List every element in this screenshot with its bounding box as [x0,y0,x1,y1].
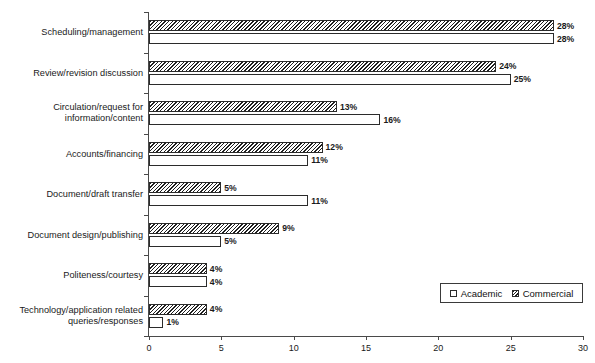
category-label: Review/revision discussion [0,67,143,78]
x-tick-mark [294,336,295,340]
bar-commercial [149,101,337,112]
bar-value-label: 12% [326,142,343,152]
bar-value-label: 28% [557,21,574,31]
x-tick-label: 30 [578,343,588,353]
bar-academic [149,195,308,206]
legend-item-commercial: Commercial [512,288,574,299]
x-tick-mark [438,336,439,340]
bar-commercial [149,142,323,153]
bar-value-label: 11% [311,196,328,206]
x-tick-label: 10 [289,343,299,353]
x-tick-mark [149,336,150,340]
legend-swatch-academic-icon [450,290,457,297]
x-tick-label: 0 [146,343,151,353]
legend-label-commercial: Commercial [523,288,574,299]
bar-value-label: 25% [514,74,531,84]
x-tick-mark [511,336,512,340]
x-tick-label: 15 [361,343,371,353]
x-tick-mark [366,336,367,340]
category-label: Technology/application relatedqueries/re… [0,305,143,327]
bar-commercial [149,223,279,234]
bar-value-label: 4% [210,277,222,287]
category-label: Scheduling/management [0,27,143,38]
chart-title [148,0,568,1]
x-tick-label: 25 [506,343,516,353]
bar-commercial [149,182,221,193]
chart-legend: Academic Commercial [440,283,583,303]
bar-commercial [149,20,554,31]
bar-academic [149,155,308,166]
x-tick-mark [583,336,584,340]
bar-value-label: 9% [282,223,294,233]
bar-value-label: 5% [224,183,236,193]
bar-value-label: 24% [499,61,516,71]
category-label: Circulation/request forinformation/conte… [0,102,143,124]
bar-chart: Scheduling/managementReview/revision dis… [0,0,595,363]
category-label: Accounts/financing [0,148,143,159]
bar-commercial [149,304,207,315]
bar-academic [149,114,380,125]
bar-academic [149,74,511,85]
bar-academic [149,276,207,287]
bar-commercial [149,61,496,72]
bar-value-label: 11% [311,155,328,165]
category-label: Document/draft transfer [0,189,143,200]
bar-commercial [149,263,207,274]
bar-value-label: 4% [210,264,222,274]
bar-academic [149,33,554,44]
x-tick-label: 20 [433,343,443,353]
bar-value-label: 5% [224,236,236,246]
bar-academic [149,317,163,328]
y-axis-line [148,12,149,336]
category-label: Politeness/courtesy [0,270,143,281]
bar-value-label: 1% [166,317,178,327]
category-label: Document design/publishing [0,229,143,240]
x-tick-label: 5 [219,343,224,353]
bar-value-label: 16% [383,115,400,125]
bar-academic [149,236,221,247]
legend-item-academic: Academic [450,288,503,299]
bar-value-label: 4% [210,304,222,314]
x-tick-mark [221,336,222,340]
legend-label-academic: Academic [461,288,503,299]
legend-swatch-commercial-icon [512,290,519,297]
bar-value-label: 28% [557,34,574,44]
bar-value-label: 13% [340,102,357,112]
